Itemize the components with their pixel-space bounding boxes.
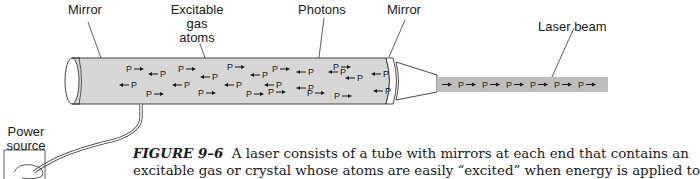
svg-text:P: P — [530, 80, 536, 90]
svg-text:P: P — [578, 80, 584, 90]
svg-text:P: P — [184, 80, 190, 90]
svg-text:P: P — [212, 72, 218, 82]
svg-text:P: P — [160, 69, 166, 79]
mirror-right-label: Mirror — [387, 3, 421, 17]
svg-text:P: P — [262, 70, 268, 80]
svg-text:P: P — [340, 67, 346, 77]
svg-text:P: P — [385, 86, 391, 96]
power-line1: Power — [4, 125, 48, 139]
svg-text:P: P — [272, 64, 278, 74]
power-line2: source — [4, 139, 48, 153]
caption-text-1: A laser consists of a tube with mirrors … — [232, 146, 689, 161]
svg-text:P: P — [357, 73, 363, 83]
svg-text:P: P — [334, 91, 340, 101]
caption-line1: FIGURE 9–6 A laser consists of a tube wi… — [133, 145, 613, 162]
svg-text:P: P — [308, 67, 314, 77]
svg-text:P: P — [333, 62, 339, 72]
svg-text:P: P — [131, 80, 137, 90]
svg-text:P: P — [307, 88, 313, 98]
svg-text:P: P — [178, 64, 184, 74]
caption-line2: excitable gas or crystal whose atoms are… — [133, 162, 613, 179]
svg-text:P: P — [236, 80, 242, 90]
svg-text:P: P — [458, 80, 464, 90]
excitable-gas-atoms-label: Excitable gas atoms — [167, 3, 227, 45]
excitable-line2: gas — [167, 17, 227, 31]
laser-beam-label: Laser beam — [538, 20, 607, 34]
svg-text:P: P — [482, 80, 488, 90]
svg-text:P: P — [268, 87, 274, 97]
mirror-left-label: Mirror — [68, 3, 102, 17]
mirror-left-leader — [88, 22, 101, 58]
svg-text:P: P — [246, 89, 252, 99]
power-plug — [14, 165, 43, 179]
svg-text:P: P — [198, 88, 204, 98]
svg-text:P: P — [146, 89, 152, 99]
laser-beam-leader — [551, 28, 574, 79]
svg-text:P: P — [383, 69, 389, 79]
svg-text:P: P — [506, 80, 512, 90]
power-source-label: Power source — [4, 125, 48, 153]
svg-text:P: P — [554, 80, 560, 90]
mirror-right-leader — [389, 20, 405, 57]
svg-text:P: P — [227, 62, 233, 72]
svg-text:P: P — [126, 64, 132, 74]
figure-label: FIGURE 9–6 — [133, 145, 223, 161]
photons-label: Photons — [298, 3, 346, 17]
excitable-line1: Excitable — [167, 3, 227, 17]
excitable-line3: atoms — [167, 31, 227, 45]
svg-text:P: P — [276, 80, 282, 90]
figure-caption: FIGURE 9–6 A laser consists of a tube wi… — [133, 145, 613, 179]
output-cone — [396, 62, 437, 100]
